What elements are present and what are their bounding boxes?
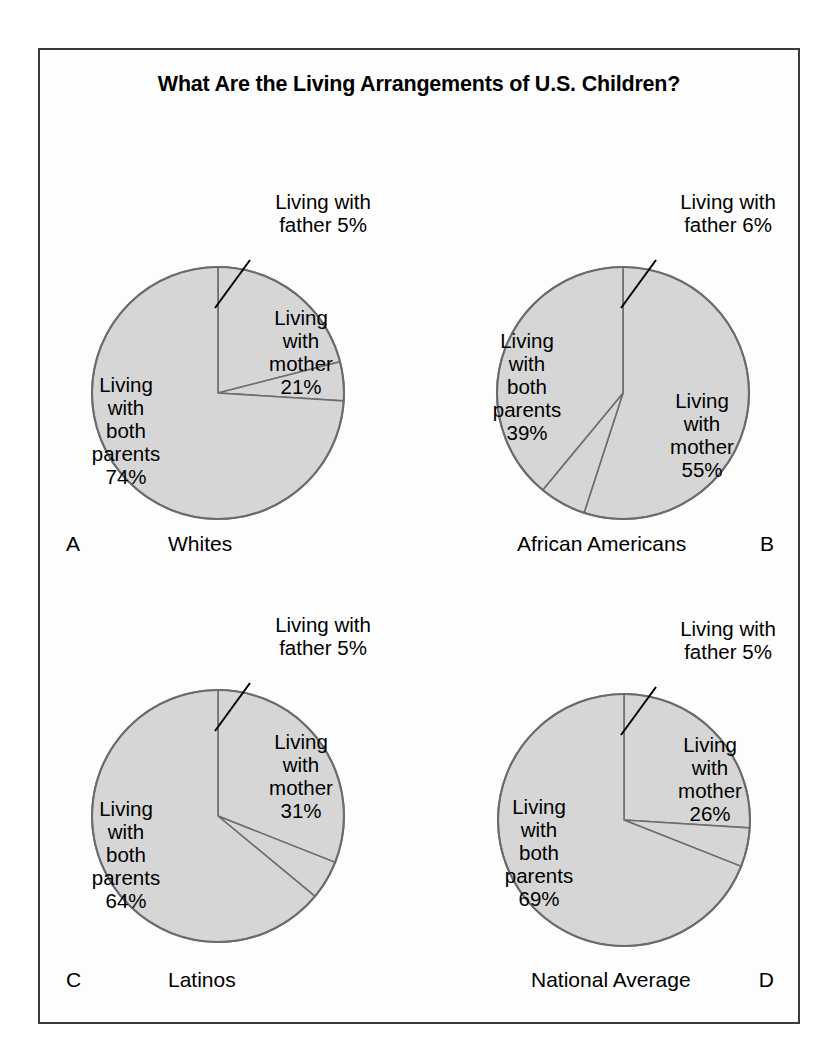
slice-label-c-mother: Living with mother 31% <box>236 731 366 823</box>
panel-caption-c: Latinos <box>168 968 236 992</box>
slice-label-b-mother: Living with mother 55% <box>637 390 767 482</box>
panel-letter-d: D <box>759 968 774 992</box>
slice-label-c-both: Living with both parents 64% <box>56 798 196 913</box>
panel-letter-c: C <box>66 968 81 992</box>
pie-panel-b: Living with both parents 39% Living with… <box>421 112 802 560</box>
slice-label-d-both: Living with both parents 69% <box>469 796 609 911</box>
pie-panel-c: Living with both parents 64% Living with… <box>40 548 421 996</box>
slice-label-d-father: Living with father 5% <box>643 617 813 663</box>
slice-label-a-mother: Living with mother 21% <box>236 307 366 399</box>
slice-label-b-father: Living with father 6% <box>643 190 813 236</box>
slice-label-b-both: Living with both parents 39% <box>457 330 597 445</box>
pie-panel-d: Living with both parents 69% Living with… <box>421 548 802 996</box>
slice-label-c-father: Living with father 5% <box>238 613 408 659</box>
pie-panel-a: Living with both parents 74% Living with… <box>40 112 421 560</box>
page-title: What Are the Living Arrangements of U.S.… <box>40 72 798 97</box>
panel-caption-d: National Average <box>531 968 691 992</box>
figure-frame: What Are the Living Arrangements of U.S.… <box>38 48 800 1024</box>
slice-label-d-mother: Living with mother 26% <box>645 734 775 826</box>
slice-label-a-both: Living with both parents 74% <box>56 374 196 489</box>
slice-label-a-father: Living with father 5% <box>238 190 408 236</box>
